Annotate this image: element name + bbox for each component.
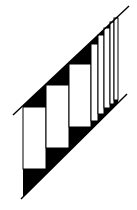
step-panel bbox=[46, 85, 69, 148]
step-panel bbox=[98, 35, 104, 114]
step-panel bbox=[110, 22, 114, 104]
step-panel bbox=[104, 28, 110, 108]
staircase-diagram bbox=[0, 0, 137, 210]
step-panel bbox=[69, 64, 91, 127]
step-panel bbox=[91, 44, 98, 121]
staircase-figure bbox=[0, 0, 137, 210]
step-panel bbox=[23, 107, 46, 169]
step-panel bbox=[114, 18, 118, 100]
